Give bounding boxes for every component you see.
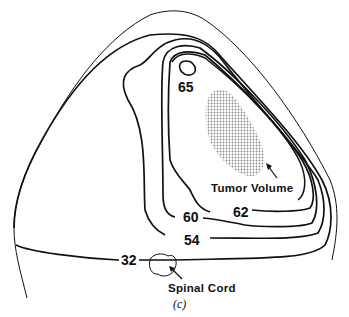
- tumor-arrowhead: [266, 163, 272, 170]
- isodose-diagram: [0, 0, 349, 317]
- tumor-volume-label: Tumor Volume: [211, 183, 293, 195]
- isodose-label-54: 54: [182, 233, 202, 247]
- isodose-65-hotspot: [180, 61, 196, 75]
- isodose-label-65: 65: [176, 80, 196, 94]
- figure-caption: (c): [173, 297, 186, 312]
- isodose-label-62: 62: [231, 205, 251, 219]
- spinal-cord-label: Spinal Cord: [168, 283, 236, 295]
- spinal-cord: [149, 254, 176, 276]
- isodose-label-32: 32: [119, 253, 139, 267]
- isodose-label-60: 60: [181, 210, 201, 224]
- cord-arrow: [172, 269, 182, 279]
